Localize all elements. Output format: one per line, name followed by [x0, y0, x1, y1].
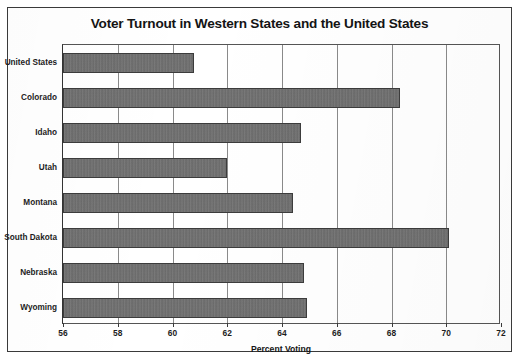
category-label-idaho: Idaho: [0, 115, 57, 150]
bar-wyoming: [63, 298, 307, 318]
bar-row: [63, 185, 499, 220]
bar-row: [63, 80, 499, 115]
x-tick-label-62: 62: [223, 328, 232, 338]
x-axis-title: Percent Voting: [62, 344, 500, 354]
category-label-wrap: United States: [63, 45, 64, 80]
x-tick-mark-72: [501, 323, 502, 327]
bar-row: [63, 290, 499, 325]
category-label-utah: Utah: [0, 150, 57, 185]
category-label-nebraska: Nebraska: [0, 255, 57, 290]
bar-row: [63, 255, 499, 290]
x-tick-label-72: 72: [496, 328, 505, 338]
category-label-wrap: Colorado: [63, 80, 64, 115]
bar-united-states: [63, 53, 194, 73]
x-tick-mark-68: [392, 323, 393, 327]
x-tick-mark-56: [63, 323, 64, 327]
x-tick-mark-60: [173, 323, 174, 327]
x-tick-mark-64: [282, 323, 283, 327]
category-label-wrap: South Dakota: [63, 220, 64, 255]
x-tick-label-68: 68: [387, 328, 396, 338]
category-label-wrap: Idaho: [63, 115, 64, 150]
bar-row: [63, 150, 499, 185]
category-label-wrap: Wyoming: [63, 290, 64, 325]
bar-utah: [63, 158, 227, 178]
x-tick-label-70: 70: [442, 328, 451, 338]
x-tick-label-66: 66: [332, 328, 341, 338]
category-label-wyoming: Wyoming: [0, 290, 57, 325]
category-label-montana: Montana: [0, 185, 57, 220]
x-tick-mark-70: [446, 323, 447, 327]
bar-row: [63, 220, 499, 255]
chart-title: Voter Turnout in Western States and the …: [8, 16, 511, 31]
category-label-colorado: Colorado: [0, 80, 57, 115]
bar-row: [63, 115, 499, 150]
category-label-wrap: Nebraska: [63, 255, 64, 290]
x-tick-label-56: 56: [58, 328, 67, 338]
x-tick-label-60: 60: [168, 328, 177, 338]
category-label-united-states: United States: [0, 45, 57, 80]
bar-south-dakota: [63, 228, 449, 248]
category-label-wrap: Montana: [63, 185, 64, 220]
bar-row: [63, 45, 499, 80]
bar-idaho: [63, 123, 301, 143]
x-tick-mark-62: [227, 323, 228, 327]
bar-nebraska: [63, 263, 304, 283]
x-tick-mark-66: [337, 323, 338, 327]
category-label-wrap: Utah: [63, 150, 64, 185]
plot-area: United StatesColoradoIdahoUtahMontanaSou…: [62, 44, 500, 324]
x-tick-label-58: 58: [113, 328, 122, 338]
x-tick-mark-58: [118, 323, 119, 327]
category-label-south-dakota: South Dakota: [0, 220, 57, 255]
x-tick-label-64: 64: [277, 328, 286, 338]
bar-colorado: [63, 88, 400, 108]
figure-frame: Voter Turnout in Western States and the …: [7, 7, 512, 352]
bar-montana: [63, 193, 293, 213]
